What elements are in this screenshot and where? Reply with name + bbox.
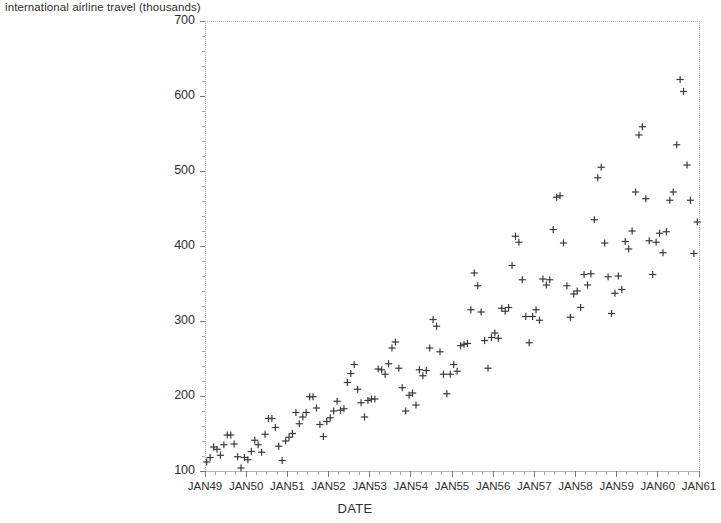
data-point-marker [375,365,382,372]
data-point-marker [683,161,690,168]
data-point-marker [522,313,529,320]
data-point-marker [659,249,666,256]
data-point-marker [340,405,347,412]
data-point-marker [567,314,574,321]
data-point-marker [402,407,409,414]
data-point-marker [251,437,258,444]
data-point-marker [519,276,526,283]
data-point-marker [447,371,454,378]
data-point-marker [337,407,344,414]
data-point-marker [481,337,488,344]
data-point-marker [313,404,320,411]
data-point-marker [433,323,440,330]
data-point-marker [454,368,461,375]
data-point-marker [529,313,536,320]
data-point-marker [639,123,646,130]
data-point-marker [687,197,694,204]
data-point-marker [474,282,481,289]
data-point-marker [615,272,622,279]
data-point-marker [591,216,598,223]
data-point-marker [296,420,303,427]
data-point-marker [598,164,605,171]
data-points [203,76,701,472]
y-tick-label: 100 [147,463,195,477]
data-point-marker [584,281,591,288]
data-point-marker [378,366,385,373]
y-tick-label: 500 [147,163,195,177]
data-point-marker [649,271,656,278]
data-point-marker [347,370,354,377]
data-point-marker [673,141,680,148]
data-point-marker [436,348,443,355]
data-point-marker [484,365,491,372]
data-point-marker [412,401,419,408]
data-point-marker [217,452,224,459]
data-point-marker [207,454,214,461]
data-point-marker [505,304,512,311]
data-point-marker [629,227,636,234]
data-point-marker [653,239,660,246]
data-point-marker [536,317,543,324]
data-point-marker [663,228,670,235]
data-point-marker [577,304,584,311]
data-point-marker [361,413,368,420]
data-point-marker [419,372,426,379]
data-point-marker [261,431,268,438]
data-point-marker [399,384,406,391]
data-point-marker [395,365,402,372]
data-point-marker [258,449,265,456]
data-point-marker [495,335,502,342]
y-tick-label: 600 [147,88,195,102]
data-point-marker [426,344,433,351]
data-point-marker [467,306,474,313]
x-axis-ticks [205,471,699,477]
data-point-marker [670,188,677,195]
data-point-marker [488,334,495,341]
data-point-marker [556,192,563,199]
data-point-marker [323,418,330,425]
data-point-marker [543,281,550,288]
data-point-marker [580,271,587,278]
data-point-marker [354,386,361,393]
data-point-marker [508,262,515,269]
data-point-marker [220,441,227,448]
data-point-marker [231,440,238,447]
data-point-marker [292,409,299,416]
data-point-marker [320,433,327,440]
data-point-marker [388,344,395,351]
data-point-marker [457,342,464,349]
data-point-marker [666,197,673,204]
data-point-marker [364,397,371,404]
data-point-marker [680,88,687,95]
data-point-marker [272,424,279,431]
data-point-marker [642,195,649,202]
data-point-marker [594,174,601,181]
data-point-marker [423,367,430,374]
data-point-marker [282,437,289,444]
data-point-marker [392,338,399,345]
data-point-marker [563,282,570,289]
data-point-marker [351,361,358,368]
data-point-marker [526,339,533,346]
data-point-marker [515,239,522,246]
data-point-marker [255,441,262,448]
data-point-marker [632,188,639,195]
data-point-marker [285,434,292,441]
data-point-marker [203,458,210,465]
data-point-marker [622,238,629,245]
data-point-marker [546,276,553,283]
data-point-marker [275,443,282,450]
data-point-marker [316,421,323,428]
data-point-marker [279,457,286,464]
data-point-marker [618,286,625,293]
y-tick-label: 300 [147,313,195,327]
data-point-marker [443,390,450,397]
data-point-marker [532,306,539,313]
data-point-marker [357,399,364,406]
data-point-marker [248,448,255,455]
data-point-marker [333,398,340,405]
data-point-marker [690,250,697,257]
data-point-marker [234,453,241,460]
data-point-marker [330,407,337,414]
